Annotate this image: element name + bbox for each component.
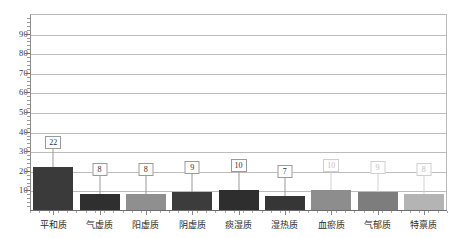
bar — [404, 194, 444, 210]
x-axis-minor-tick — [215, 211, 216, 213]
bar-value-label: 9 — [370, 161, 385, 174]
x-axis-minor-tick — [308, 211, 309, 213]
x-axis-minor-tick — [206, 211, 207, 213]
x-axis-tick — [378, 211, 379, 215]
x-axis-category-label: 痰湿质 — [225, 220, 252, 231]
x-axis-category-label: 阴虚质 — [179, 220, 206, 231]
x-axis-minor-tick — [289, 211, 290, 213]
x-axis-label-group: 平和质气虚质阳虚质阴虚质痰湿质湿热质血瘀质气郁质特禀质 — [30, 220, 447, 236]
bar-value-label: 7 — [277, 165, 292, 178]
x-axis-minor-tick — [280, 211, 281, 213]
value-leader-line — [53, 149, 54, 167]
value-leader-line — [99, 176, 100, 194]
x-axis-tick — [192, 211, 193, 215]
value-leader-line — [423, 176, 424, 194]
bar-value-label: 9 — [185, 161, 200, 174]
x-axis-category-label: 平和质 — [40, 220, 67, 231]
x-axis-minor-tick — [58, 211, 59, 213]
bar-series: 228891071098 — [30, 14, 447, 210]
x-axis-minor-tick — [150, 211, 151, 213]
value-leader-line — [192, 174, 193, 192]
x-axis-minor-tick — [234, 211, 235, 213]
bar-value-label: 8 — [92, 163, 107, 176]
value-leader-line — [331, 172, 332, 190]
x-axis-minor-tick — [419, 211, 420, 213]
x-axis-minor-tick — [243, 211, 244, 213]
value-leader-line — [284, 178, 285, 196]
x-axis-minor-tick — [169, 211, 170, 213]
x-axis-minor-tick — [345, 211, 346, 213]
bar — [172, 192, 212, 210]
bar — [265, 196, 305, 210]
x-axis-minor-tick — [86, 211, 87, 213]
x-axis-minor-tick — [391, 211, 392, 213]
x-axis-minor-tick — [271, 211, 272, 213]
x-axis-minor-tick — [141, 211, 142, 213]
bar — [126, 194, 166, 210]
x-axis-category-label: 湿热质 — [271, 220, 298, 231]
bar-value-label: 10 — [323, 159, 339, 172]
x-axis-category-label: 特禀质 — [410, 220, 437, 231]
x-axis-category-label: 气郁质 — [364, 220, 391, 231]
value-leader-line — [377, 174, 378, 192]
x-axis-minor-tick — [113, 211, 114, 213]
x-axis-minor-tick — [428, 211, 429, 213]
x-axis-minor-tick — [49, 211, 50, 213]
x-axis-minor-tick — [197, 211, 198, 213]
x-axis-minor-tick — [354, 211, 355, 213]
x-axis-tick — [424, 211, 425, 215]
value-leader-line — [145, 176, 146, 194]
bar — [33, 167, 73, 210]
x-axis-minor-tick — [299, 211, 300, 213]
x-axis-minor-tick — [336, 211, 337, 213]
x-axis-minor-tick — [132, 211, 133, 213]
x-axis-tick — [100, 211, 101, 215]
x-axis-tick — [146, 211, 147, 215]
x-axis-minor-tick — [438, 211, 439, 213]
y-axis-label-group: 102030405060708090 — [0, 0, 28, 238]
x-axis-tick — [53, 211, 54, 215]
x-axis-minor-tick — [39, 211, 40, 213]
x-axis-tick — [285, 211, 286, 215]
x-axis-minor-tick — [447, 211, 448, 213]
x-axis-tick — [331, 211, 332, 215]
x-axis-tick — [239, 211, 240, 215]
x-axis-minor-tick — [67, 211, 68, 213]
x-axis-minor-tick — [178, 211, 179, 213]
x-axis-minor-tick — [104, 211, 105, 213]
x-axis-minor-tick — [262, 211, 263, 213]
x-axis-minor-tick — [252, 211, 253, 213]
bar-value-label: 22 — [45, 136, 61, 149]
bar — [219, 190, 259, 210]
bar — [358, 192, 398, 210]
bar-chart: 102030405060708090 228891071098 平和质气虚质阳虚… — [0, 0, 451, 238]
x-axis-minor-tick — [95, 211, 96, 213]
x-axis-minor-tick — [410, 211, 411, 213]
x-axis-minor-tick — [76, 211, 77, 213]
x-axis-category-label: 血瘀质 — [318, 220, 345, 231]
x-axis-minor-tick — [123, 211, 124, 213]
x-axis-minor-tick — [401, 211, 402, 213]
x-axis-minor-tick — [225, 211, 226, 213]
x-axis-category-label: 阳虚质 — [132, 220, 159, 231]
x-axis-minor-tick — [382, 211, 383, 213]
bar-value-label: 8 — [416, 163, 431, 176]
x-axis-minor-tick — [364, 211, 365, 213]
x-axis-minor-tick — [160, 211, 161, 213]
bar-value-label: 10 — [231, 159, 247, 172]
x-axis-minor-tick — [30, 211, 31, 213]
bar — [80, 194, 120, 210]
x-axis-minor-tick — [327, 211, 328, 213]
x-axis-category-label: 气虚质 — [86, 220, 113, 231]
value-leader-line — [238, 172, 239, 190]
x-axis-minor-tick — [373, 211, 374, 213]
bar — [311, 190, 351, 210]
x-axis-minor-tick — [317, 211, 318, 213]
bar-value-label: 8 — [138, 163, 153, 176]
x-axis-minor-tick — [188, 211, 189, 213]
